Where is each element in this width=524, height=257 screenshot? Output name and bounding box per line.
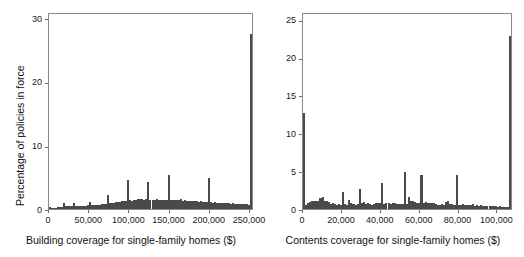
panel-building-coverage: 0102030 050,000100,000150,000200,000250,… xyxy=(0,0,262,257)
histogram-bar xyxy=(303,113,305,209)
y-axis-tick-label: 10 xyxy=(266,130,296,139)
x-axis-tick-mark xyxy=(249,210,250,213)
histogram-bar xyxy=(456,175,458,209)
y-axis-tick-label: 0 xyxy=(266,206,296,215)
histogram-bars-right xyxy=(303,14,511,209)
y-axis-tick-label: 0 xyxy=(12,206,42,215)
x-axis-tick-mark xyxy=(496,210,497,213)
x-axis-tick-mark xyxy=(380,210,381,213)
x-axis-tick-mark xyxy=(302,210,303,213)
y-axis-tick-mark xyxy=(299,96,302,97)
y-axis-tick-mark xyxy=(299,172,302,173)
two-panel-histogram-figure: 0102030 050,000100,000150,000200,000250,… xyxy=(0,0,524,257)
y-axis-tick-mark xyxy=(45,19,48,20)
x-axis-tick-mark xyxy=(341,210,342,213)
x-axis-title-right: Contents coverage for single-family home… xyxy=(262,234,524,246)
plot-area-right xyxy=(302,13,512,210)
y-axis-tick-label: 15 xyxy=(266,92,296,101)
y-axis-tick-mark xyxy=(45,83,48,84)
x-axis-tick-mark xyxy=(128,210,129,213)
y-axis-tick-mark xyxy=(299,21,302,22)
plot-area-left xyxy=(48,13,253,210)
y-axis-tick-label: 20 xyxy=(266,54,296,63)
x-axis-tick-label: 100,000 xyxy=(466,216,524,225)
y-axis-tick-label: 5 xyxy=(266,168,296,177)
x-axis-tick-mark xyxy=(88,210,89,213)
panel-contents-coverage: 0510152025 020,00040,00060,00080,000100,… xyxy=(262,0,524,257)
x-axis-title-left: Building coverage for single-family home… xyxy=(0,234,262,246)
y-axis-tick-label: 25 xyxy=(266,16,296,25)
histogram-bar xyxy=(509,36,511,209)
x-axis-tick-mark xyxy=(458,210,459,213)
y-axis-title-left: Percentage of policies in force xyxy=(14,65,26,206)
y-axis-tick-mark xyxy=(299,59,302,60)
y-axis-tick-mark xyxy=(299,134,302,135)
x-axis-tick-mark xyxy=(209,210,210,213)
histogram-bar xyxy=(250,34,252,209)
y-axis-tick-mark xyxy=(45,147,48,148)
x-axis-tick-mark xyxy=(419,210,420,213)
histogram-bars-left xyxy=(49,14,252,209)
y-axis-tick-label: 30 xyxy=(12,15,42,24)
x-axis-tick-mark xyxy=(169,210,170,213)
x-axis-tick-mark xyxy=(48,210,49,213)
